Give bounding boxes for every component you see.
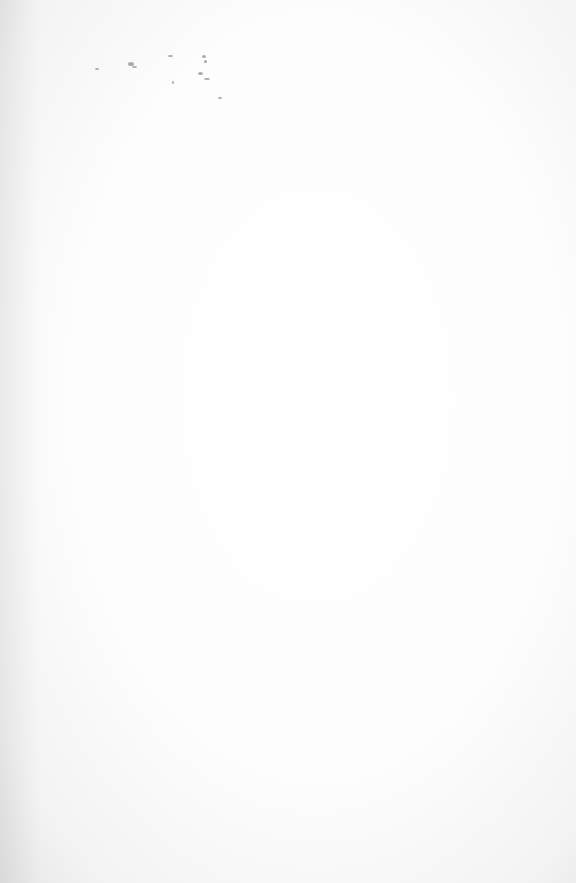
ink-speck <box>204 60 207 63</box>
ink-speck <box>132 66 137 68</box>
page-edge-shadow <box>0 0 40 883</box>
ink-speck <box>198 72 203 75</box>
ink-speck <box>172 81 174 84</box>
ink-speck <box>168 55 173 57</box>
ink-speck <box>204 78 210 80</box>
ink-speck <box>202 55 206 58</box>
ink-speck <box>95 68 99 70</box>
scanned-page <box>0 0 576 883</box>
ink-speck <box>218 97 222 99</box>
page-content <box>0 0 1 1</box>
